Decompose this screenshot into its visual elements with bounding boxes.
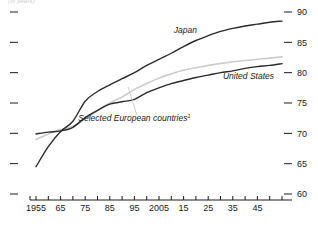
x-axis-label: 65 <box>56 203 66 213</box>
x-axis-label: 25 <box>203 203 213 213</box>
y-axis-label: 80 <box>297 68 307 78</box>
x-axis-label: 85 <box>105 203 115 213</box>
x-axis-label: 2005 <box>149 203 169 213</box>
series-annotation-selected-european-countries: Selected European countries1 <box>78 113 190 123</box>
footnote-marker: 1 <box>187 113 190 119</box>
x-axis-label: 15 <box>179 203 189 213</box>
x-axis-label: 75 <box>80 203 90 213</box>
x-axis-label: 45 <box>252 203 262 213</box>
y-axis-label: 70 <box>297 129 307 139</box>
x-axis-label: 35 <box>228 203 238 213</box>
x-axis-label: 95 <box>129 203 139 213</box>
series-annotation-japan: Japan <box>173 25 197 35</box>
line-chart: 90858075706560195565758595200515253545Ja… <box>0 0 318 229</box>
y-axis-label: 90 <box>297 7 307 17</box>
series-line-japan <box>36 21 282 167</box>
y-axis-label: 60 <box>297 189 307 199</box>
chart-container: (in years) 90858075706560195565758595200… <box>0 0 318 229</box>
y-axis-label: 75 <box>297 98 307 108</box>
y-axis-label: 85 <box>297 38 307 48</box>
series-annotation-united-states: United States <box>223 71 275 81</box>
x-axis-label: 1955 <box>26 203 46 213</box>
y-axis-label: 65 <box>297 159 307 169</box>
